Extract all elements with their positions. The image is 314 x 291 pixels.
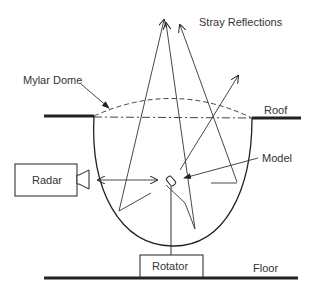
mylar-dome	[94, 98, 252, 118]
rotator-label: Rotator	[152, 260, 188, 272]
model-target	[165, 175, 176, 187]
mylar-pointer-arrow	[81, 84, 109, 108]
roof-plane-line	[94, 117, 252, 118]
diagram-svg: Radar Rotator Model Mylar Dome Stray Ref…	[0, 0, 314, 291]
roof-label: Roof	[264, 104, 288, 116]
ray-paths	[119, 20, 238, 229]
floor-label: Floor	[253, 262, 278, 274]
roof	[44, 116, 301, 118]
radar-label: Radar	[32, 174, 62, 186]
anechoic-chamber-diagram: Radar Rotator Model Mylar Dome Stray Ref…	[0, 0, 314, 291]
radar-horn-icon	[77, 170, 89, 189]
radar-unit: Radar	[15, 164, 89, 196]
model-label: Model	[262, 152, 292, 164]
mylar-dome-label: Mylar Dome	[23, 74, 82, 86]
stray-reflections-label: Stray Reflections	[199, 16, 283, 28]
